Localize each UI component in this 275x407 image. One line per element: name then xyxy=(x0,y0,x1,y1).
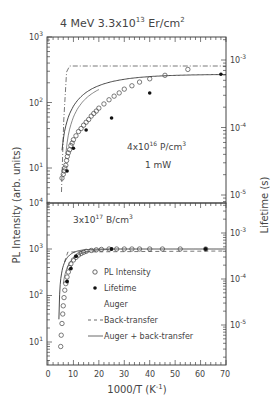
svg-text:Lifetime: Lifetime xyxy=(104,284,137,293)
svg-text:70: 70 xyxy=(220,370,230,379)
svg-text:Auger: Auger xyxy=(104,300,129,309)
top-annotation-doping: 4x1016 P/cm3 xyxy=(127,140,186,152)
svg-text:102: 102 xyxy=(29,96,43,108)
svg-text:Back-transfer: Back-transfer xyxy=(104,316,159,325)
svg-text:10-5: 10-5 xyxy=(230,188,246,200)
svg-text:10-3: 10-3 xyxy=(230,226,246,238)
top-panel-frame xyxy=(47,37,226,203)
svg-text:10: 10 xyxy=(68,370,78,379)
y-axis-label-left: PL Intensity (arb. units) xyxy=(11,146,22,263)
svg-text:102: 102 xyxy=(29,288,43,300)
x-ticklabels: 0 10 20 30 40 50 60 70 xyxy=(45,370,230,379)
y-axis-label-right: Lifetime (s) xyxy=(259,177,270,234)
open-circle-icon xyxy=(93,270,97,274)
svg-text:30: 30 xyxy=(119,370,129,379)
svg-text:104: 104 xyxy=(29,196,43,208)
filled-circle-icon xyxy=(93,286,97,290)
svg-text:40: 40 xyxy=(145,370,155,379)
chart-title: 4 MeV 3.3x1013 Er/cm2 xyxy=(60,16,185,30)
left-y-ticklabels-bottom: 103 102 101 xyxy=(29,242,43,347)
svg-text:Auger + back-transfer: Auger + back-transfer xyxy=(104,332,194,341)
svg-text:0: 0 xyxy=(45,370,50,379)
svg-text:60: 60 xyxy=(195,370,205,379)
svg-text:10-4: 10-4 xyxy=(230,121,246,133)
right-y-ticklabels: 10-3 10-4 10-5 10-3 10-4 10-5 xyxy=(230,53,246,330)
svg-text:PL Intensity: PL Intensity xyxy=(104,268,151,277)
bottom-annotation-doping: 3x1017 B/cm3 xyxy=(73,213,133,225)
top-annotation-power: 1 mW xyxy=(145,160,171,170)
chart-figure: 4 MeV 3.3x1013 Er/cm2 103 102 101 104 10… xyxy=(0,0,275,407)
svg-text:10-4: 10-4 xyxy=(230,272,246,284)
left-y-ticklabels-top: 103 102 101 104 xyxy=(29,30,43,208)
svg-text:20: 20 xyxy=(94,370,104,379)
svg-text:10-5: 10-5 xyxy=(230,318,246,330)
legend: PL Intensity Lifetime Auger Back-transfe… xyxy=(88,268,194,341)
svg-text:50: 50 xyxy=(170,370,180,379)
x-axis-label: 1000/T (K-1) xyxy=(107,383,167,395)
svg-text:101: 101 xyxy=(29,335,43,347)
svg-text:103: 103 xyxy=(29,30,43,42)
svg-text:101: 101 xyxy=(29,161,43,173)
svg-text:10-3: 10-3 xyxy=(230,53,246,65)
svg-text:103: 103 xyxy=(29,242,43,254)
